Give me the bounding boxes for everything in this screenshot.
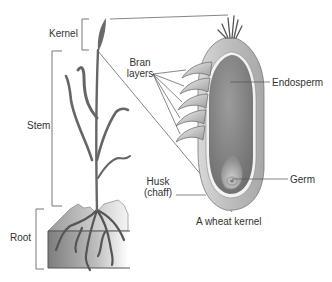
label-stem: Stem <box>27 120 50 131</box>
wheat-stalk <box>66 50 130 210</box>
wheat-kernel-detail <box>198 16 264 210</box>
label-bran-line2: layers <box>124 68 156 79</box>
label-bran-line1: Bran <box>124 57 156 68</box>
wheat-head <box>98 18 106 50</box>
label-root: Root <box>10 232 31 243</box>
root-bracket <box>36 209 44 269</box>
stem-bracket <box>52 51 62 206</box>
label-husk: Husk (chaff) <box>140 176 176 198</box>
label-endosperm: Endosperm <box>272 77 323 88</box>
wheat-diagram <box>0 0 332 282</box>
label-bran: Bran layers <box>124 57 156 79</box>
label-husk-line2: (chaff) <box>140 187 176 198</box>
kernel-bracket <box>82 19 89 50</box>
caption: A wheat kernel <box>196 216 262 227</box>
label-germ: Germ <box>290 174 315 185</box>
label-kernel: Kernel <box>49 28 78 39</box>
label-husk-line1: Husk <box>140 176 176 187</box>
